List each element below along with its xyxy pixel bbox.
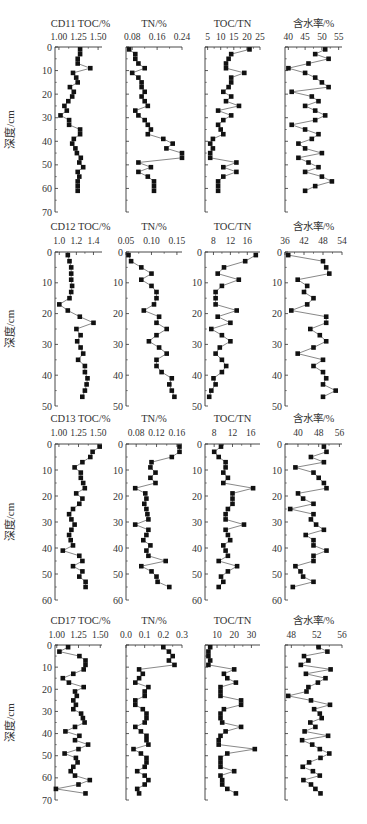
data-point (253, 747, 258, 752)
data-point (223, 528, 228, 533)
data-point (153, 470, 158, 475)
data-point (82, 720, 87, 725)
data-point (144, 507, 149, 512)
data-point (318, 333, 323, 338)
data-point (154, 358, 159, 363)
data-point (146, 528, 151, 533)
data-point (311, 364, 316, 369)
data-point (71, 765, 76, 770)
y-tick-label: 20 (272, 491, 282, 502)
data-point (74, 491, 79, 496)
x-tick-label: 0.08 (124, 32, 141, 42)
data-point (77, 160, 82, 165)
data-point (218, 734, 223, 739)
data-point (324, 265, 329, 270)
data-point (137, 676, 142, 681)
data-line (59, 255, 93, 397)
x-tick-label: 0.05 (118, 236, 135, 246)
data-point (146, 554, 151, 559)
data-point (66, 99, 71, 104)
data-point (229, 52, 234, 57)
data-point (83, 364, 88, 369)
data-point (229, 80, 234, 85)
y-tick-label: 30 (42, 706, 52, 717)
data-point (301, 496, 306, 501)
x-tick-label: 56 (337, 630, 347, 640)
data-point (254, 253, 259, 258)
data-point (78, 345, 83, 350)
data-point (80, 395, 85, 400)
y-tick-label: 50 (113, 569, 123, 580)
data-point (170, 388, 175, 393)
data-point (88, 66, 93, 71)
x-tick-label: 12 (228, 428, 238, 438)
data-point (219, 574, 224, 579)
x-tick-label: 55 (334, 32, 344, 42)
data-point (216, 189, 221, 194)
data-point (144, 716, 149, 721)
x-tick-label: 1.00 (48, 630, 65, 640)
data-point (318, 756, 323, 761)
data-point (54, 787, 59, 792)
data-point (142, 773, 147, 778)
data-point (144, 760, 149, 765)
data-point (223, 548, 228, 553)
y-tick-label: 20 (42, 308, 52, 319)
data-point (301, 778, 306, 783)
data-point (67, 680, 72, 685)
data-point (83, 580, 88, 585)
data-point (67, 123, 72, 128)
data-point (133, 698, 138, 703)
x-tick-label: 0.0 (120, 630, 132, 640)
data-point (226, 476, 231, 481)
data-point (223, 517, 228, 522)
data-point (154, 574, 159, 579)
data-point (78, 127, 83, 132)
data-point (311, 470, 316, 475)
data-point (70, 94, 75, 99)
data-point (221, 174, 226, 179)
y-tick-label: 30 (113, 517, 123, 528)
data-point (144, 711, 149, 716)
data-point (143, 491, 148, 496)
data-point (324, 339, 329, 344)
data-point (61, 548, 66, 553)
x-tick-label: 1.2 (70, 236, 82, 246)
data-point (144, 496, 149, 501)
data-point (218, 689, 223, 694)
data-line (129, 49, 182, 190)
data-point (223, 729, 228, 734)
x-tick-label: 15 (229, 32, 239, 42)
y-tick-label: 0 (47, 439, 52, 450)
data-point (170, 455, 175, 460)
data-point (324, 321, 329, 326)
data-point (157, 314, 162, 319)
data-point (75, 57, 80, 62)
data-point (323, 113, 328, 118)
data-point (226, 569, 231, 574)
data-point (77, 654, 82, 659)
data-point (149, 165, 154, 170)
y-tick-label: 50 (192, 401, 202, 412)
panel-title: CD11 TOC/% (51, 18, 111, 29)
data-point (293, 564, 298, 569)
x-tick-label: 1.50 (90, 32, 107, 42)
data-point (220, 720, 225, 725)
data-point (228, 321, 233, 326)
data-point (148, 476, 153, 481)
y-tick-label: 10 (272, 465, 282, 476)
data-point (303, 127, 308, 132)
data-point (326, 57, 331, 62)
data-point (146, 104, 151, 109)
data-point (242, 522, 247, 527)
x-tick-label: 20 (229, 630, 239, 640)
x-tick-label: 40 (293, 428, 303, 438)
y-tick-label: 20 (42, 491, 52, 502)
y-tick-label: 40 (272, 370, 282, 381)
data-point (133, 52, 138, 57)
data-point (133, 486, 138, 491)
x-tick-label: 48 (287, 630, 297, 640)
x-tick-label: 5 (205, 32, 210, 42)
y-tick-label: 10 (192, 465, 202, 476)
data-point (299, 663, 304, 668)
